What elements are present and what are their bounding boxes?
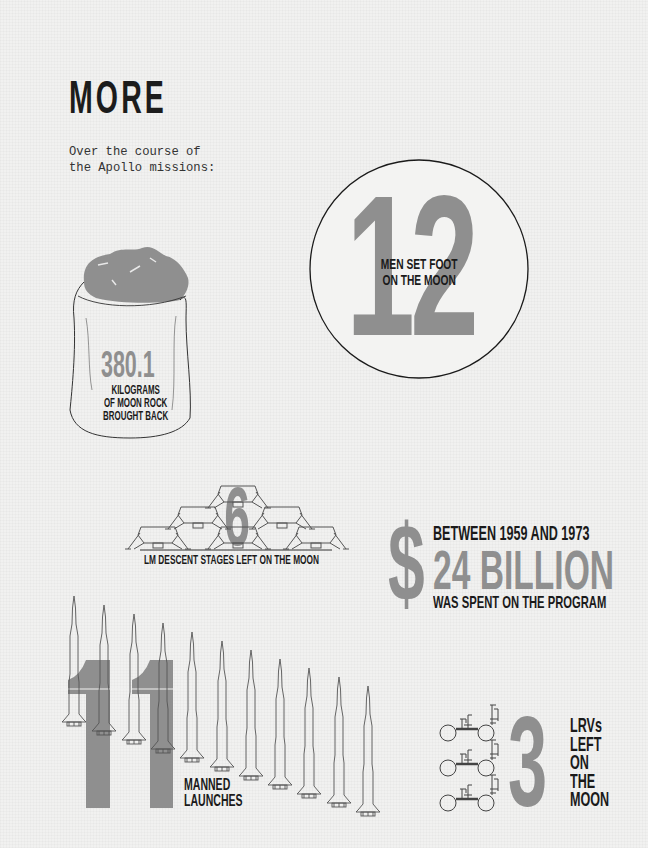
lm-stages-label: LM DESCENT STAGES LEFT ON THE MOON xyxy=(144,553,319,567)
cost-caption: WAS SPENT ON THE PROGRAM xyxy=(433,594,606,612)
lrv-graphic xyxy=(440,705,498,811)
launches-label: MANNED LAUNCHES xyxy=(184,777,243,809)
moonwalkers-label: MEN SET FOOT ON THE MOON xyxy=(373,256,465,288)
cost-value: 24 BILLION xyxy=(433,542,614,598)
lrv-label: LRVs LEFT ON THE MOON xyxy=(570,716,609,809)
graphics-layer: 6 xyxy=(0,0,648,848)
moon-rock-value: 380.1 xyxy=(101,346,155,383)
lm-stages-graphic: 6 xyxy=(125,469,349,562)
dollar-sign: $ xyxy=(388,508,425,618)
lrv-count-value: 3 xyxy=(508,698,547,826)
moon-rock-label: KILOGRAMS OF MOON ROCK BROUGHT BACK xyxy=(100,384,171,423)
